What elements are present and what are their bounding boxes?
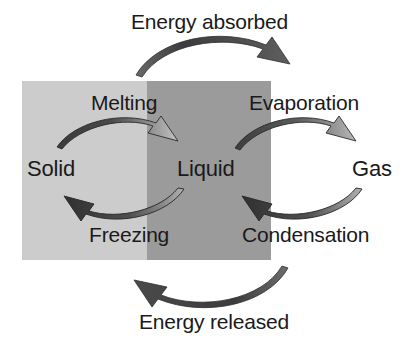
energy-released-label: Energy released [139,311,289,332]
energy-released-arrow [134,266,288,308]
state-label-solid: Solid [27,158,75,180]
process-label-melting: Melting [91,92,157,113]
phase-change-diagram: Energy absorbed Energy released Solid Li… [0,0,417,349]
energy-absorbed-label: Energy absorbed [131,11,288,32]
energy-absorbed-arrow [136,36,290,77]
process-label-freezing: Freezing [89,224,169,245]
state-label-liquid: Liquid [177,158,235,180]
evaporation-arrow [235,116,356,150]
state-label-gas: Gas [352,158,392,180]
process-label-condensation: Condensation [242,224,369,245]
process-label-evaporation: Evaporation [249,92,359,113]
condensation-arrow [242,188,362,221]
melting-arrow [57,116,178,149]
freezing-arrow [64,188,184,221]
